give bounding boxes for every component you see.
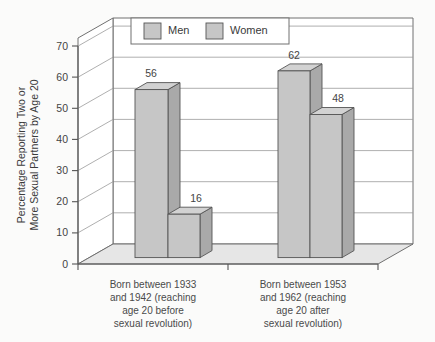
- bar-value-men-1: 56: [145, 67, 157, 79]
- y-tick-label-70: 70: [56, 40, 68, 52]
- category-1-line-3: age 20 before: [122, 305, 184, 316]
- legend-swatch-women: [206, 23, 223, 39]
- bar-value-women-1: 16: [190, 192, 202, 204]
- category-2-line-4: sexual revolution): [264, 318, 342, 329]
- legend-label-women: Women: [230, 24, 268, 36]
- x-axis: [78, 264, 378, 270]
- legend-swatch-men: [144, 23, 161, 39]
- bar-women-2[interactable]: [310, 108, 354, 258]
- y-axis: [72, 46, 78, 264]
- category-label-2: Born between 1953 and 1962 (reaching age…: [260, 279, 347, 329]
- category-2-line-1: Born between 1953: [260, 279, 347, 290]
- y-tick-label-0: 0: [62, 258, 68, 270]
- bar-value-men-2: 62: [288, 49, 300, 61]
- category-1-line-2: and 1942 (reaching: [110, 292, 196, 303]
- plot-left-wall: [78, 18, 113, 264]
- plot-floor: [78, 244, 413, 264]
- y-axis-title-line1: Percentage Reporting Two or: [15, 86, 27, 223]
- y-tick-labels: 0 10 20 30 40 50 60 70: [56, 40, 68, 270]
- y-axis-title-line2: More Sexual Partners by Age 20: [28, 79, 40, 230]
- y-tick-label-20: 20: [56, 195, 68, 207]
- y-axis-title: Percentage Reporting Two or More Sexual …: [15, 79, 40, 230]
- legend: Men Women: [131, 18, 289, 44]
- y-tick-label-60: 60: [56, 71, 68, 83]
- bar-chart: 0 10 20 30 40 50 60 70 Percentage Report…: [0, 0, 435, 342]
- y-tick-label-50: 50: [56, 102, 68, 114]
- category-2-line-3: age 20 after: [276, 305, 330, 316]
- bar-value-women-2: 48: [332, 92, 344, 104]
- bar-women-1[interactable]: [168, 207, 212, 257]
- chart-svg: 0 10 20 30 40 50 60 70 Percentage Report…: [0, 0, 435, 342]
- y-tick-label-10: 10: [56, 226, 68, 238]
- category-1-line-1: Born between 1933: [110, 279, 197, 290]
- y-tick-label-40: 40: [56, 133, 68, 145]
- category-1-line-4: sexual revolution): [114, 318, 192, 329]
- category-2-line-2: and 1962 (reaching: [260, 292, 346, 303]
- category-label-1: Born between 1933 and 1942 (reaching age…: [110, 279, 197, 329]
- legend-label-men: Men: [168, 24, 189, 36]
- y-tick-label-30: 30: [56, 164, 68, 176]
